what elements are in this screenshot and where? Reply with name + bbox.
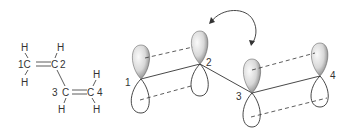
atom-c4: C [87,87,94,98]
overlap-top-3-4 [252,53,315,70]
atom-h2: H [57,42,64,53]
atom-h3: H [58,104,65,115]
p-orbital-1-bottom-lobe [131,79,149,113]
rotation-arrow-icon [209,10,256,46]
orbital-label-2: 2 [206,57,212,68]
p-orbital-3-top-lobe [243,59,260,93]
atom-c3-number: 3 [52,87,58,98]
atom-h1a: H [21,42,28,53]
atom-h1b: H [21,77,28,88]
orbital-label-4: 4 [330,70,336,81]
orbital-label-3: 3 [236,91,242,102]
orbital-diagram: 1 2 3 4 [125,10,336,127]
p-orbital-2-bottom-lobe [191,64,208,96]
p-orbital-4-top-lobe [311,43,328,76]
butadiene-diagram: H 1C H C 2 H 3 C H C 4 H H [0,0,351,134]
sigma-bond-3-4 [252,76,320,93]
atom-h4a: H [93,69,100,80]
atom-c1: 1C [18,59,31,70]
atom-h4b: H [93,104,100,115]
overlap-bottom-1-2 [140,86,191,100]
atom-c2-number: 2 [60,59,66,70]
sigma-bond-1-2 [141,64,200,79]
atom-c4-number: 4 [97,87,103,98]
p-orbital-4-bottom-lobe [311,76,328,107]
p-orbital-3-bottom-lobe [243,93,260,127]
structural-formula: H 1C H C 2 H 3 C H C 4 H H [18,42,103,115]
atom-c3: C [62,87,69,98]
orbital-label-1: 1 [125,77,131,88]
overlap-top-1-2 [145,47,193,58]
p-orbital-1-top-lobe [132,45,149,79]
overlap-bottom-3-4 [251,98,327,117]
atom-c2: C [51,59,58,70]
